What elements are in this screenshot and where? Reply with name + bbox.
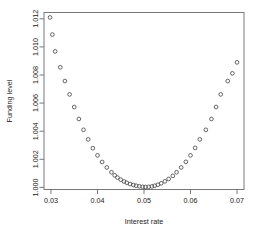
data-point [171,174,175,178]
data-point [189,154,193,158]
data-point [110,170,114,174]
data-point [53,50,57,54]
data-point [91,146,95,150]
y-tick-label: 1.008 [31,66,40,84]
data-point [231,71,235,75]
scatter-plot: 0.030.040.050.060.07 1.0001.0021.0041.00… [0,0,258,237]
y-tick-label: 1.012 [31,10,40,28]
data-point [219,93,223,97]
y-axis-title: Funding level [5,79,14,122]
data-point-group [48,16,239,189]
x-tick-label: 0.03 [44,196,58,205]
x-axis-ticks [51,190,237,195]
chart-figure: 0.030.040.050.060.07 1.0001.0021.0041.00… [0,0,258,237]
y-tick-label: 1.004 [31,122,40,140]
data-point [175,170,179,174]
x-tick-label: 0.06 [184,196,198,205]
data-point [198,138,202,142]
data-point [51,33,55,37]
data-point [214,105,218,109]
data-point [48,16,52,20]
data-point [167,177,171,181]
data-point [82,128,86,132]
data-point [96,154,100,158]
data-point [159,181,163,185]
data-point [77,117,81,121]
data-point [105,166,109,170]
plot-frame [44,13,244,190]
y-tick-label: 1.006 [31,94,40,112]
data-point [184,160,188,164]
y-tick-label: 1.010 [31,38,40,56]
data-point [68,93,72,97]
data-point [163,180,167,184]
x-axis-title: Interest rate [125,217,163,226]
x-tick-label: 0.07 [230,196,244,205]
x-tick-label: 0.04 [90,196,104,205]
x-tick-label: 0.05 [137,196,151,205]
data-point [58,65,62,69]
data-point [204,128,208,132]
x-axis-tick-labels: 0.030.040.050.060.07 [44,196,244,205]
data-point [179,166,183,170]
data-point [193,146,197,150]
data-point [210,117,214,121]
data-point [226,79,230,83]
data-point [63,79,67,83]
y-tick-label: 1.002 [31,150,40,168]
y-axis-tick-labels: 1.0001.0021.0041.0061.0081.0101.012 [31,10,40,197]
data-point [72,105,76,109]
data-point [235,61,239,65]
data-point [86,138,90,142]
y-tick-label: 1.000 [31,178,40,196]
data-point [100,160,104,164]
